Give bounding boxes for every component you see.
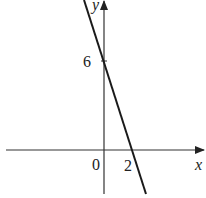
x-axis-label: x bbox=[194, 156, 202, 173]
y-axis-label: y bbox=[90, 0, 100, 14]
x-tick-label-2: 2 bbox=[124, 157, 132, 174]
chart: y 6 0 2 x bbox=[0, 0, 206, 198]
origin-label: 0 bbox=[92, 156, 100, 173]
y-tick-label-6: 6 bbox=[83, 53, 91, 70]
